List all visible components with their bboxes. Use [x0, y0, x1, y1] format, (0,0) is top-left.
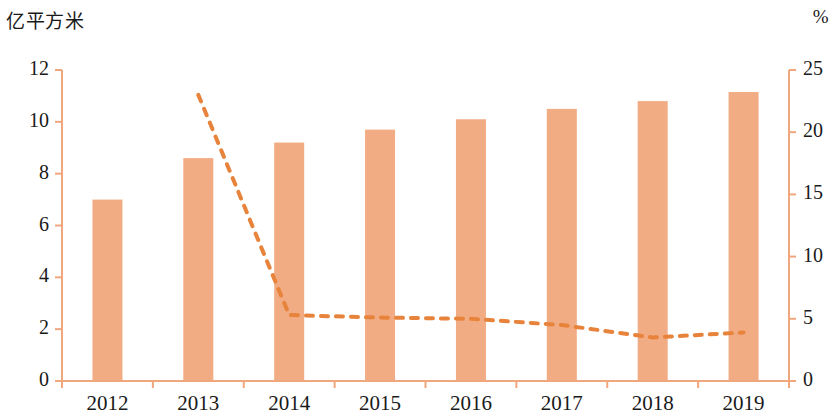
x-axis-label-2019: 2019 — [698, 391, 789, 416]
left-axis-tick-label: 2 — [9, 316, 49, 339]
right-axis-tick-label: 15 — [803, 181, 839, 204]
left-axis-tick-label: 10 — [9, 109, 49, 132]
left-axis-tick-label: 8 — [9, 161, 49, 184]
bar-2012 — [92, 200, 122, 381]
left-axis-tick-label: 4 — [9, 264, 49, 287]
chart-container: 亿平方米 % 024681012 0510152025 201220132014… — [0, 0, 839, 417]
right-axis-tick-label: 5 — [803, 306, 839, 329]
bar-2013 — [183, 158, 213, 381]
bar-2015 — [365, 130, 395, 381]
x-axis-label-2017: 2017 — [516, 391, 607, 416]
right-axis-tick-label: 25 — [803, 57, 839, 80]
x-axis-label-2016: 2016 — [426, 391, 517, 416]
x-axis-label-2012: 2012 — [62, 391, 153, 416]
x-axis-label-2014: 2014 — [244, 391, 335, 416]
bar-2017 — [547, 109, 577, 381]
left-axis-tick-label: 6 — [9, 213, 49, 236]
right-axis-tick-label: 0 — [803, 368, 839, 391]
left-axis-tick-label: 12 — [9, 57, 49, 80]
x-axis-label-2018: 2018 — [607, 391, 698, 416]
right-axis-tick-label: 20 — [803, 119, 839, 142]
x-axis-label-2015: 2015 — [335, 391, 426, 416]
plot-area — [0, 0, 839, 417]
bar-2014 — [274, 143, 304, 381]
bar-2016 — [456, 119, 486, 381]
left-axis-tick-label: 0 — [9, 368, 49, 391]
right-axis-tick-label: 10 — [803, 244, 839, 267]
x-axis-label-2013: 2013 — [153, 391, 244, 416]
bar-2019 — [729, 92, 759, 381]
axes-group — [55, 70, 796, 388]
